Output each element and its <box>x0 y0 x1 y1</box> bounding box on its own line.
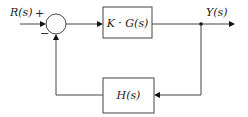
output-label: Y(s) <box>206 6 228 19</box>
feedback-line-left <box>56 36 103 95</box>
plus-sign: + <box>35 7 44 20</box>
feedback-block-label: H(s) <box>116 89 141 102</box>
feedback-arrow-icon <box>154 92 160 98</box>
output-arrow-icon <box>229 21 235 27</box>
feedback-input-arrow-icon <box>53 34 59 40</box>
forward-block-label: K · G(s) <box>106 17 149 30</box>
forward-arrow-icon <box>97 21 103 27</box>
block-diagram: R(s) + − K · G(s) Y(s) H(s) <box>0 0 248 117</box>
minus-sign: − <box>40 27 49 40</box>
input-label: R(s) <box>9 6 33 19</box>
feedback-line-right <box>156 24 201 95</box>
